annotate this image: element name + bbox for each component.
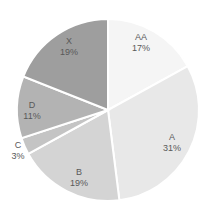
slice-category-label: X [66, 36, 72, 46]
slice-percent-label: 11% [23, 111, 40, 121]
slice-percent-label: 31% [163, 143, 181, 153]
slice-category-label: D [29, 100, 36, 110]
slice-percent-label: 19% [70, 178, 88, 188]
slice-percent-label: 19% [60, 47, 78, 57]
slice-category-label: C [15, 140, 22, 150]
slice-percent-label: 17% [132, 43, 150, 53]
slice-category-label: B [76, 167, 82, 177]
slice-category-label: A [169, 132, 175, 142]
pie-chart: AA17%A31%B19%C3%D11%X19% [0, 0, 203, 215]
slice-percent-label: 3% [11, 151, 24, 161]
slice-category-label: AA [135, 32, 147, 42]
pie-chart-svg: AA17%A31%B19%C3%D11%X19% [0, 0, 203, 215]
